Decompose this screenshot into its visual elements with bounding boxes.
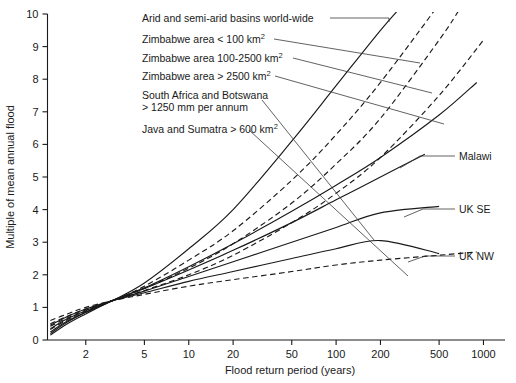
label-zimbabwe-large: Zimbabwe area > 2500 km2	[142, 69, 271, 82]
y-tick-label-1: 1	[32, 301, 38, 313]
y-tick-label-6: 6	[32, 138, 38, 150]
label-arid: Arid and semi-arid basins world-wide	[142, 12, 314, 24]
label-south-africa-line1: South Africa and Botswana	[142, 89, 268, 101]
label-zimbabwe-small: Zimbabwe area < 100 km2	[142, 32, 265, 45]
x-tick-group	[86, 340, 484, 345]
leader-zim-small	[274, 39, 420, 63]
x-tick-label-2: 2	[83, 348, 89, 360]
left-annotation-labels: Arid and semi-arid basins world-wide Zim…	[142, 12, 314, 135]
leader-malawi	[400, 156, 455, 168]
x-axis-title: Flood return period (years)	[225, 364, 355, 376]
y-tick-label-0: 0	[32, 334, 38, 346]
chart-figure: 012345678910 251020501002005001000 Multi…	[0, 0, 516, 383]
label-malawi: Malawi	[459, 150, 492, 162]
x-tick-label-10: 10	[183, 348, 195, 360]
leader-java	[249, 130, 408, 276]
x-tick-label-group: 251020501002005001000	[83, 348, 496, 360]
leader-uk-se	[404, 209, 455, 217]
curve-zimbabwe-area-2500-km2	[50, 40, 483, 324]
flood-frequency-chart: 012345678910 251020501002005001000 Multi…	[0, 0, 516, 383]
x-tick-label-200: 200	[371, 348, 389, 360]
y-tick-label-4: 4	[32, 204, 38, 216]
label-uk-nw: UK NW	[459, 250, 494, 262]
y-tick-label-2: 2	[32, 269, 38, 281]
y-tick-label-9: 9	[32, 41, 38, 53]
x-tick-label-5: 5	[141, 348, 147, 360]
y-tick-group	[43, 14, 48, 340]
curve-java-and-sumatra-600-km2	[50, 252, 476, 320]
label-java-sumatra: Java and Sumatra > 600 km2	[142, 122, 278, 135]
y-tick-label-3: 3	[32, 236, 38, 248]
y-axis-title: Multiple of mean annual flood	[4, 105, 16, 249]
label-uk-se: UK SE	[459, 203, 491, 215]
y-tick-label-8: 8	[32, 73, 38, 85]
y-tick-label-7: 7	[32, 106, 38, 118]
curve-arid-and-semi-arid-basins-world-wide	[50, 1, 406, 334]
y-tick-label-group: 012345678910	[26, 8, 38, 346]
curve-uk-se	[50, 206, 439, 328]
x-tick-label-500: 500	[430, 348, 448, 360]
label-zimbabwe-mid: Zimbabwe area 100-2500 km2	[142, 51, 283, 64]
y-tick-label-10: 10	[26, 8, 38, 20]
label-south-africa-line2: > 1250 mm per annum	[142, 101, 248, 113]
x-tick-label-50: 50	[286, 348, 298, 360]
y-tick-label-5: 5	[32, 171, 38, 183]
leader-zim-mid	[293, 58, 432, 93]
curve-uk-nw	[50, 240, 439, 325]
x-tick-label-100: 100	[327, 348, 345, 360]
leader-zim-large	[275, 76, 444, 124]
x-tick-label-20: 20	[227, 348, 239, 360]
right-annotation-labels: Malawi UK SE UK NW	[459, 150, 494, 262]
curve-malawi	[50, 154, 424, 332]
x-tick-label-1000: 1000	[471, 348, 495, 360]
leader-arid	[330, 18, 389, 22]
